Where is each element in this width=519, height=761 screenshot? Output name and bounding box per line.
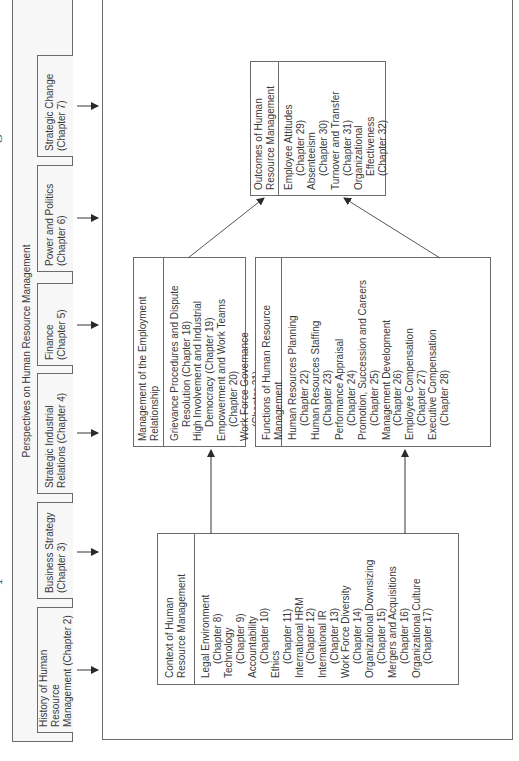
arrow-employment-to-outcomes [188,198,264,258]
arrow-functions-to-outcomes [344,198,440,258]
hrm-framework-diagram: 1 G Perspectives on Human Resource Manag… [0,0,519,761]
connector-arrows [0,0,519,761]
perspective-arrows [77,106,98,670]
